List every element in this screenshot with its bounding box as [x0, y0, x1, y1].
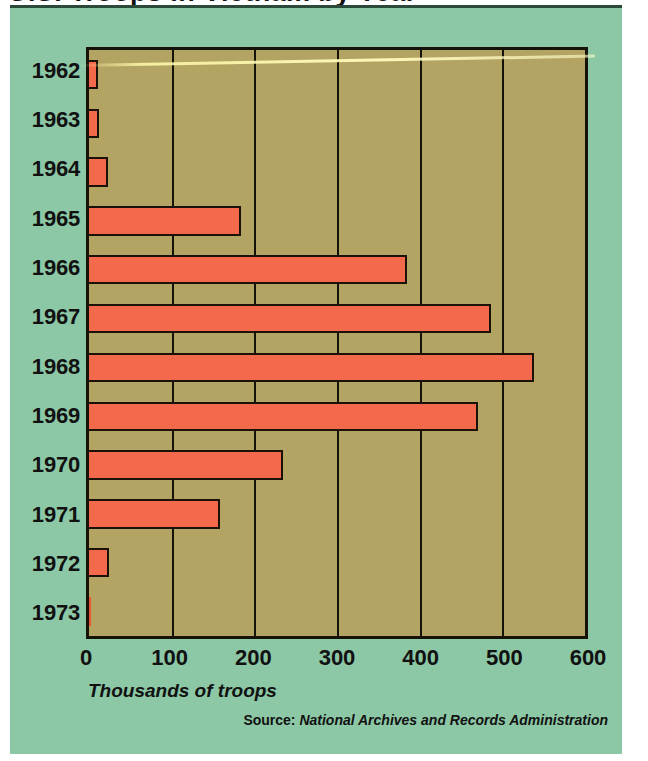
- y-axis-labels: 1962196319641965196619671968196919701971…: [20, 47, 84, 639]
- y-axis-label-1971: 1971: [32, 502, 80, 528]
- y-axis-label-1970: 1970: [32, 452, 80, 478]
- bar-row: [89, 157, 585, 186]
- bar-1965: [89, 206, 241, 235]
- plot-area: [86, 47, 588, 639]
- gridline-600: [585, 50, 587, 636]
- x-axis-labels: 0100200300400500600: [86, 645, 588, 675]
- source-body: National Archives and Records Administra…: [299, 712, 608, 728]
- x-axis-label-200: 200: [235, 645, 272, 671]
- bar-row: [89, 255, 585, 284]
- chart-panel: 1962196319641965196619671968196919701971…: [10, 5, 622, 754]
- y-axis-label-1962: 1962: [32, 58, 80, 84]
- y-axis-label-1967: 1967: [32, 304, 80, 330]
- bar-1964: [89, 157, 108, 186]
- bar-1968: [89, 353, 534, 382]
- x-axis-caption: Thousands of troops: [88, 680, 277, 702]
- x-axis-label-400: 400: [402, 645, 439, 671]
- y-axis-label-1969: 1969: [32, 403, 80, 429]
- y-axis-label-1968: 1968: [32, 354, 80, 380]
- bar-1973: [89, 597, 91, 626]
- bar-1962: [89, 60, 98, 89]
- x-axis-label-300: 300: [319, 645, 356, 671]
- bar-1971: [89, 499, 220, 528]
- bar-1972: [89, 548, 109, 577]
- bar-rows: [89, 50, 585, 636]
- bar-row: [89, 450, 585, 479]
- bar-row: [89, 597, 585, 626]
- bar-row: [89, 402, 585, 431]
- panel-top-rule: [10, 5, 622, 8]
- x-axis-label-0: 0: [80, 645, 92, 671]
- bar-row: [89, 304, 585, 333]
- bar-row: [89, 109, 585, 138]
- bar-row: [89, 499, 585, 528]
- bar-1970: [89, 450, 283, 479]
- bar-1966: [89, 255, 407, 284]
- bar-1969: [89, 402, 478, 431]
- bar-row: [89, 353, 585, 382]
- bar-row: [89, 60, 585, 89]
- y-axis-label-1965: 1965: [32, 206, 80, 232]
- bar-1963: [89, 109, 99, 138]
- bar-row: [89, 548, 585, 577]
- y-axis-label-1966: 1966: [32, 255, 80, 281]
- bar-1967: [89, 304, 491, 333]
- y-axis-label-1973: 1973: [32, 600, 80, 626]
- bar-row: [89, 206, 585, 235]
- x-axis-label-600: 600: [570, 645, 607, 671]
- y-axis-label-1963: 1963: [32, 107, 80, 133]
- x-axis-label-500: 500: [486, 645, 523, 671]
- source-label: Source:: [243, 712, 295, 728]
- source-note: Source: National Archives and Records Ad…: [243, 712, 608, 728]
- chart-figure: U.S. Troops in Vietnam by Year 196219631…: [0, 0, 648, 761]
- x-axis-label-100: 100: [151, 645, 188, 671]
- y-axis-label-1972: 1972: [32, 551, 80, 577]
- y-axis-label-1964: 1964: [32, 156, 80, 182]
